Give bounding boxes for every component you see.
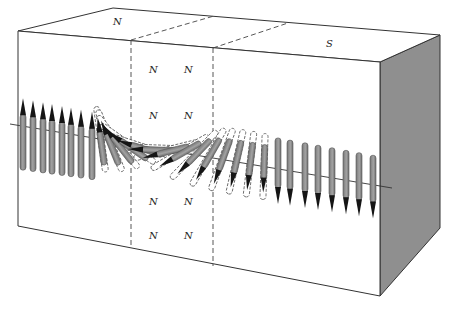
wall-label: N (148, 110, 159, 121)
wall-label: N (183, 64, 194, 75)
domain-wall-diagram: N S N N N N N N N N (0, 0, 454, 311)
wall-label: N (183, 110, 194, 121)
top-right-pole-label: S (326, 38, 333, 49)
wall-label: N (148, 230, 159, 241)
top-left-pole-label: N (112, 16, 123, 27)
wall-label: N (183, 196, 194, 207)
wall-label: N (148, 64, 159, 75)
wall-label: N (183, 230, 194, 241)
wall-label: N (148, 196, 159, 207)
box-side-face (380, 35, 440, 296)
